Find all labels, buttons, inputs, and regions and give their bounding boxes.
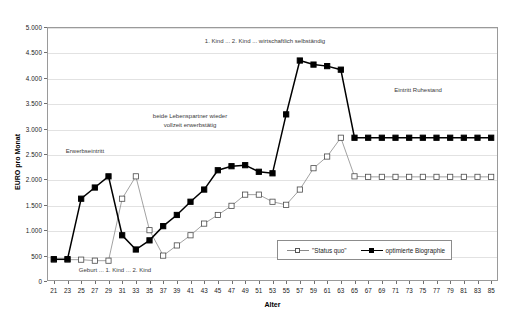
data-point-marker xyxy=(284,202,289,207)
data-point-marker xyxy=(366,135,371,140)
data-point-marker xyxy=(133,247,138,252)
data-point-marker xyxy=(174,243,179,248)
data-point-marker xyxy=(352,135,357,140)
data-point-marker xyxy=(92,258,97,263)
data-point-marker xyxy=(243,192,248,197)
data-point-marker xyxy=(188,199,193,204)
legend-item-status-quo[interactable]: "Status quo" xyxy=(287,247,347,254)
data-point-marker xyxy=(434,135,439,140)
data-point-marker xyxy=(243,163,248,168)
data-point-marker xyxy=(202,221,207,226)
data-point-marker xyxy=(79,196,84,201)
legend-label-optimierte-biographie: optimierte Biographie xyxy=(386,247,446,254)
data-point-marker xyxy=(311,62,316,67)
data-point-marker xyxy=(106,258,111,263)
data-point-marker xyxy=(297,187,302,192)
data-point-marker xyxy=(215,168,220,173)
data-point-marker xyxy=(311,166,316,171)
data-point-marker xyxy=(448,174,453,179)
data-point-marker xyxy=(284,112,289,117)
data-point-marker xyxy=(393,174,398,179)
data-point-marker xyxy=(270,199,275,204)
data-point-marker xyxy=(92,185,97,190)
data-point-marker xyxy=(147,238,152,243)
chart-container: EURO pro Monat Alter 05001.0001.5002.000… xyxy=(0,0,516,310)
data-point-marker xyxy=(174,212,179,217)
data-point-marker xyxy=(393,135,398,140)
data-series-layer xyxy=(0,0,516,310)
data-point-marker xyxy=(120,233,125,238)
legend: "Status quo" optimierte Biographie xyxy=(277,240,452,260)
data-point-marker xyxy=(256,192,261,197)
data-point-marker xyxy=(420,135,425,140)
data-point-marker xyxy=(420,174,425,179)
data-point-marker xyxy=(325,154,330,159)
data-point-marker xyxy=(256,169,261,174)
data-point-marker xyxy=(161,253,166,258)
data-point-marker xyxy=(434,174,439,179)
data-point-marker xyxy=(147,228,152,233)
data-point-marker xyxy=(65,257,70,262)
data-point-marker xyxy=(489,174,494,179)
data-point-marker xyxy=(475,135,480,140)
data-point-marker xyxy=(270,171,275,176)
data-point-marker xyxy=(366,174,371,179)
data-point-marker xyxy=(379,174,384,179)
data-point-marker xyxy=(297,58,302,63)
data-point-marker xyxy=(489,135,494,140)
data-point-marker xyxy=(352,174,357,179)
data-point-marker xyxy=(448,135,453,140)
data-point-marker xyxy=(79,257,84,262)
data-point-marker xyxy=(461,174,466,179)
data-point-marker xyxy=(51,257,56,262)
data-point-marker xyxy=(229,164,234,169)
data-point-marker xyxy=(120,196,125,201)
data-point-marker xyxy=(133,174,138,179)
data-point-marker xyxy=(379,135,384,140)
filled-square-marker-icon xyxy=(361,247,383,254)
data-point-marker xyxy=(338,135,343,140)
data-point-marker xyxy=(475,174,480,179)
data-point-marker xyxy=(461,135,466,140)
data-point-marker xyxy=(407,174,412,179)
data-point-marker xyxy=(161,224,166,229)
data-point-marker xyxy=(188,233,193,238)
data-point-marker xyxy=(325,64,330,69)
data-point-marker xyxy=(215,212,220,217)
legend-item-optimierte-biographie[interactable]: optimierte Biographie xyxy=(361,247,446,254)
data-point-marker xyxy=(338,67,343,72)
series-line-2 xyxy=(54,61,491,260)
data-point-marker xyxy=(106,174,111,179)
legend-label-status-quo: "Status quo" xyxy=(312,247,347,254)
open-square-marker-icon xyxy=(287,247,309,254)
data-point-marker xyxy=(407,135,412,140)
data-point-marker xyxy=(202,187,207,192)
data-point-marker xyxy=(229,203,234,208)
